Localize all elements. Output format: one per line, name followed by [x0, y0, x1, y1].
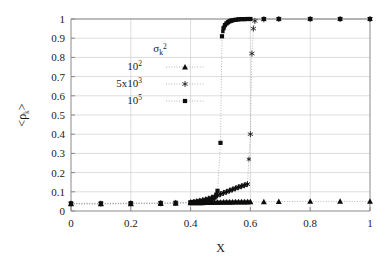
- series-2-dense-point: [249, 17, 252, 20]
- series-2-point: [262, 17, 266, 21]
- chart-svg: 00.10.20.30.40.50.60.70.80.9100.20.40.60…: [0, 0, 390, 261]
- series-2-point: [338, 17, 342, 21]
- ytick-label: 0.2: [51, 167, 65, 179]
- series-2-dense-point: [214, 192, 217, 195]
- series-2-point: [277, 17, 281, 21]
- y-axis-label: <ρk>: [15, 103, 31, 127]
- series-2-point: [159, 201, 163, 205]
- ytick-label: 0.8: [51, 51, 65, 63]
- series-2-point: [174, 201, 178, 205]
- ytick-label: 0: [60, 205, 66, 217]
- ytick-label: 0.3: [51, 147, 65, 159]
- series-2-point: [308, 17, 312, 21]
- xtick-label: 0: [68, 217, 74, 229]
- series-2-point: [69, 201, 73, 205]
- ytick-label: 0.4: [51, 128, 65, 140]
- chart-figure: 00.10.20.30.40.50.60.70.80.9100.20.40.60…: [0, 0, 390, 261]
- ytick-label: 1: [60, 13, 66, 25]
- xtick-label: 1: [367, 217, 373, 229]
- series-2-dense-point: [213, 196, 216, 199]
- xtick-label: 0.4: [184, 217, 198, 229]
- series-2-point: [368, 17, 372, 21]
- series-2-point: [218, 141, 222, 145]
- xtick-label: 0.2: [124, 217, 138, 229]
- series-2-point: [99, 201, 103, 205]
- xtick-label: 0.8: [303, 217, 317, 229]
- ytick-label: 0.7: [51, 71, 65, 83]
- ytick-label: 0.5: [51, 109, 65, 121]
- ytick-label: 0.9: [51, 32, 65, 44]
- x-axis-label: X: [216, 241, 225, 255]
- series-2-point: [129, 201, 133, 205]
- legend-marker-2: [183, 99, 187, 103]
- series-2-point: [220, 34, 224, 38]
- xtick-label: 0.6: [244, 217, 258, 229]
- series-2-point: [215, 189, 219, 193]
- ytick-label: 0.1: [51, 186, 65, 198]
- series-2-dense-point: [221, 30, 224, 33]
- ytick-label: 0.6: [51, 90, 65, 102]
